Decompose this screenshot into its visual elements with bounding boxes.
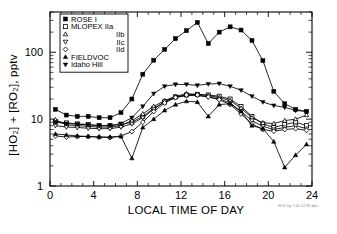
x-axis-title: LOCAL TIME OF DAY xyxy=(128,204,244,216)
x-tick-label: 20 xyxy=(262,189,274,201)
figure-root: 04812162024 110100 ROSE IMLOPEX IIaIIbII… xyxy=(0,0,337,234)
data-point-marker xyxy=(174,37,178,41)
data-point-marker xyxy=(217,30,221,34)
x-tick-label: 24 xyxy=(306,189,318,201)
data-point-marker xyxy=(75,114,79,118)
data-point-marker xyxy=(272,89,276,93)
y-tick-label: 1 xyxy=(37,180,43,192)
data-point-marker xyxy=(64,25,68,29)
data-point-marker xyxy=(53,107,57,111)
y-tick-label: 100 xyxy=(25,46,43,58)
data-point-marker xyxy=(64,113,68,117)
chart-canvas: 04812162024 110100 ROSE IMLOPEX IIaIIbII… xyxy=(0,0,337,234)
data-point-marker xyxy=(228,25,232,29)
data-point-marker xyxy=(152,58,156,62)
data-point-marker xyxy=(195,20,199,24)
data-point-marker xyxy=(261,59,265,63)
data-point-marker xyxy=(283,102,287,106)
y-axis-title: [HO₂] + [RO₂], pptv xyxy=(7,54,19,155)
data-point-marker xyxy=(86,114,90,118)
legend-item-label: IId xyxy=(116,45,124,54)
x-tick-label: 0 xyxy=(47,189,53,201)
x-tick-label: 16 xyxy=(219,189,231,201)
data-point-marker xyxy=(206,42,210,46)
chart-legend: ROSE IMLOPEX IIaIIbIIcIIdFIELDVOCIdaho H… xyxy=(60,14,128,72)
data-point-marker xyxy=(163,47,167,51)
data-point-marker xyxy=(250,38,254,42)
x-tick-label: 8 xyxy=(134,189,140,201)
data-point-marker xyxy=(184,29,188,33)
x-tick-label: 4 xyxy=(91,189,97,201)
x-tick-label: 12 xyxy=(175,189,187,201)
data-point-marker xyxy=(141,72,145,76)
legend-item-label: MLOPEX IIa xyxy=(71,22,114,31)
y-tick-label: 10 xyxy=(31,113,43,125)
data-point-marker xyxy=(97,116,101,120)
data-point-marker xyxy=(130,97,134,101)
legend-item-mlopex-iia[interactable]: MLOPEX IIa xyxy=(64,22,114,31)
data-point-marker xyxy=(108,116,112,120)
watermark-label: HO2 fig 7.00 12.95 dpn xyxy=(278,204,317,208)
legend-item-label: Idaho Hill xyxy=(71,60,103,69)
data-point-marker xyxy=(64,17,68,21)
data-point-marker xyxy=(119,111,123,115)
data-point-marker xyxy=(239,28,243,32)
